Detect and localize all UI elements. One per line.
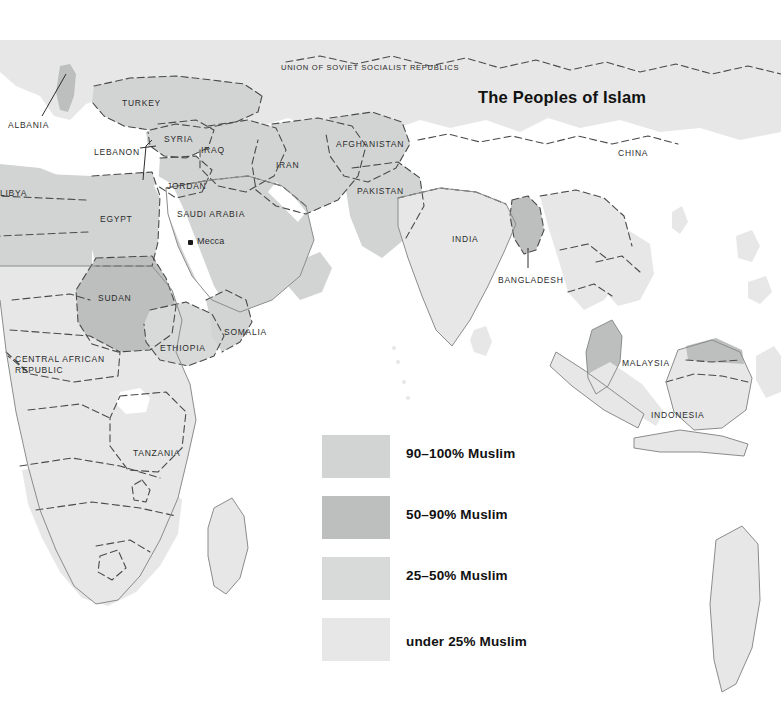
map-label-iran: IRAN — [276, 160, 299, 170]
map-label-bangladesh: BANGLADESH — [498, 275, 564, 285]
island-maldives-4 — [406, 396, 410, 400]
map-label-syria: SYRIA — [164, 134, 193, 144]
legend-swatch-under-25 — [322, 618, 390, 661]
legend-swatch-25-50 — [322, 557, 390, 600]
map-label-india: INDIA — [452, 234, 478, 244]
legend-swatch-90-100 — [322, 435, 390, 478]
legend-label-90-100: 90–100% Muslim — [406, 446, 515, 461]
legend-label-50-90: 50–90% Muslim — [406, 507, 508, 522]
legend-item-90-100: 90–100% Muslim — [322, 435, 652, 496]
map-label-malaysia: MALAYSIA — [622, 358, 670, 368]
map-label-pakistan: PAKISTAN — [357, 186, 404, 196]
map-label-turkey: TURKEY — [122, 98, 161, 108]
map-label-somalia: SOMALIA — [224, 327, 267, 337]
map-label-tanzania: TANZANIA — [133, 448, 180, 458]
map-label-indonesia: INDONESIA — [651, 410, 705, 420]
island-maldives-2 — [396, 360, 400, 364]
map-label-ethiopia: ETHIOPIA — [160, 343, 206, 353]
map-label-lebanon: LEBANON — [94, 147, 140, 157]
country-libya — [0, 172, 92, 268]
map-label-jordan: JORDAN — [167, 181, 206, 191]
legend: 90–100% Muslim 50–90% Muslim 25–50% Musl… — [322, 435, 652, 662]
map-title: The Peoples of Islam — [478, 88, 646, 107]
map-label-central-african-republic-1: CENTRAL AFRICAN — [15, 354, 105, 364]
map-label-sudan: SUDAN — [98, 293, 132, 303]
map-label-afghanistan: AFGHANISTAN — [336, 139, 404, 149]
map-label-libya: LIBYA — [0, 188, 27, 198]
legend-item-50-90: 50–90% Muslim — [322, 496, 652, 557]
legend-swatch-50-90 — [322, 496, 390, 539]
map-label-central-african-republic-2: REPUBLIC — [15, 365, 64, 375]
map-label-saudi-arabia: SAUDI ARABIA — [177, 209, 245, 219]
legend-item-under-25: under 25% Muslim — [322, 618, 652, 662]
legend-item-25-50: 25–50% Muslim — [322, 557, 652, 618]
legend-label-under-25: under 25% Muslim — [406, 634, 527, 649]
island-maldives-3 — [402, 380, 406, 384]
island-maldives-1 — [392, 346, 396, 350]
mecca-label: Mecca — [197, 236, 225, 246]
legend-label-25-50: 25–50% Muslim — [406, 568, 508, 583]
map-label-china: CHINA — [618, 148, 648, 158]
map-label-iraq: IRAQ — [201, 145, 225, 155]
mecca-dot — [188, 240, 193, 245]
map-page: .t90 { fill:#d2d4d3; } .t50 { fill:#bdbf… — [0, 0, 781, 704]
map-label-albania: ALBANIA — [8, 120, 49, 130]
map-label-ussr: UNION OF SOVIET SOCIALIST REPUBLICS — [281, 63, 459, 72]
map-label-egypt: EGYPT — [100, 214, 133, 224]
